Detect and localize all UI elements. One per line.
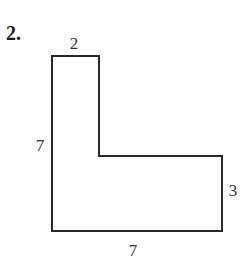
label-bottom-width: 7 bbox=[129, 241, 138, 260]
label-top-width: 2 bbox=[70, 34, 79, 53]
label-left-height: 7 bbox=[36, 136, 45, 155]
l-shape-diagram: 2. 2 7 3 7 bbox=[0, 0, 247, 265]
label-right-height: 3 bbox=[229, 181, 238, 200]
l-shape-outline bbox=[52, 56, 222, 231]
problem-number: 2. bbox=[6, 22, 21, 44]
